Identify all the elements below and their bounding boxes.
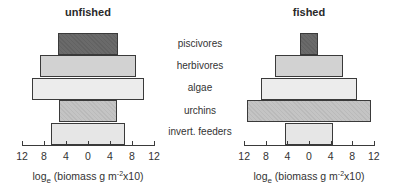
tick-label: 8	[34, 150, 54, 162]
label-herbivores: herbivores	[150, 60, 250, 71]
label-algae: algae	[150, 82, 250, 93]
unfished-bar-piscivores	[58, 33, 117, 55]
tick-mark	[374, 141, 375, 146]
fished-bar-herbivores	[275, 55, 343, 77]
tick-label: 12	[12, 150, 32, 162]
tick-mark	[132, 141, 133, 146]
unfished-bar-urchins	[59, 100, 117, 122]
tick-label: 0	[78, 150, 98, 162]
label-urchins: urchins	[150, 105, 250, 116]
tick-mark	[352, 141, 353, 146]
tick-mark	[154, 141, 155, 146]
fished-bar-piscivores	[300, 33, 318, 55]
tick-mark	[244, 141, 245, 146]
tick-label: 8	[342, 150, 362, 162]
fished-title: fished	[249, 6, 369, 18]
tick-label: 8	[256, 150, 276, 162]
tick-mark	[309, 141, 310, 146]
label-invert-feeders: invert. feeders	[150, 126, 250, 137]
tick-label: 4	[56, 150, 76, 162]
fished-bar-urchins	[247, 100, 370, 122]
tick-mark	[110, 141, 111, 146]
tick-label: 12	[144, 150, 164, 162]
tick-mark	[22, 141, 23, 146]
tick-mark	[88, 141, 89, 146]
unfished-bar-algae	[32, 78, 143, 100]
tick-mark	[287, 141, 288, 146]
tick-mark	[44, 141, 45, 146]
tick-label: 4	[277, 150, 297, 162]
tick-label: 8	[122, 150, 142, 162]
fished-bar-algae	[261, 78, 357, 100]
tick-mark	[266, 141, 267, 146]
tick-mark	[331, 141, 332, 146]
unfished-bar-herbivores	[40, 55, 136, 77]
tick-label: 4	[100, 150, 120, 162]
tick-label: 0	[299, 150, 319, 162]
tick-label: 12	[364, 150, 384, 162]
label-piscivores: piscivores	[150, 38, 250, 49]
tick-label: 4	[321, 150, 341, 162]
unfished-x-axis-label: loge (biomass g m-2x10)	[13, 170, 163, 185]
tick-label: 12	[234, 150, 254, 162]
tick-mark	[66, 141, 67, 146]
unfished-title: unfished	[28, 6, 148, 18]
fished-x-axis-label: loge (biomass g m-2x10)	[234, 170, 384, 185]
